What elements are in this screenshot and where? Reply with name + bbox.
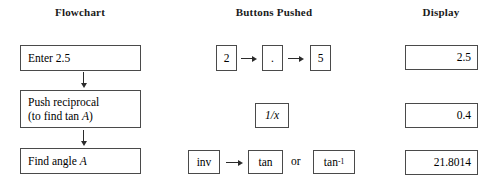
arrow-head [81, 83, 87, 88]
column-header-buttons-pushed: Buttons Pushed [236, 6, 312, 18]
arrow-head [299, 56, 304, 62]
arrow-head [238, 160, 243, 166]
key-button-5[interactable]: 5 [310, 45, 331, 71]
key-button-tan-inverse[interactable]: tan-1 [313, 150, 355, 174]
key-button-tan[interactable]: tan [248, 150, 283, 174]
display-value-1: 2.5 [405, 45, 478, 70]
arrow-right-icon-3 [226, 158, 244, 167]
key-button-decimal-point[interactable]: . [262, 45, 283, 71]
flowchart-step-3-line-1: Find angle A [28, 154, 140, 168]
arrow-right-icon-2 [288, 54, 305, 63]
key-button-reciprocal[interactable]: 1/x [255, 103, 289, 128]
arrow-head [81, 141, 87, 146]
display-value-2: 0.4 [405, 103, 478, 128]
display-value-3: 21.8014 [405, 150, 478, 175]
variable-a: A [80, 155, 87, 167]
column-header-flowchart: Flowchart [55, 6, 105, 18]
flowchart-arrow-down-icon-2 [79, 130, 88, 147]
variable-a: A [82, 110, 89, 122]
connector-or-label: or [291, 155, 301, 167]
flowchart-arrow-down-icon-1 [79, 72, 88, 89]
flowchart-step-1-line-1: Enter 2.5 [28, 51, 140, 65]
key-button-tan-inverse-base: tan [324, 155, 338, 169]
flowchart-step-1: Enter 2.5 [20, 45, 141, 71]
flowchart-step-3: Find angle A [20, 148, 141, 174]
column-header-display: Display [423, 6, 460, 18]
flowchart-step-2-line-2: (to find tan A) [28, 109, 140, 123]
flowchart-step-2-line-1: Push reciprocal [28, 95, 140, 109]
key-button-reciprocal-label: 1/x [265, 108, 279, 122]
key-button-inv[interactable]: inv [188, 150, 220, 174]
key-button-2[interactable]: 2 [216, 45, 237, 71]
arrow-head [252, 56, 257, 62]
flowchart-step-2: Push reciprocal (to find tan A) [20, 90, 141, 128]
arrow-right-icon-1 [241, 54, 258, 63]
